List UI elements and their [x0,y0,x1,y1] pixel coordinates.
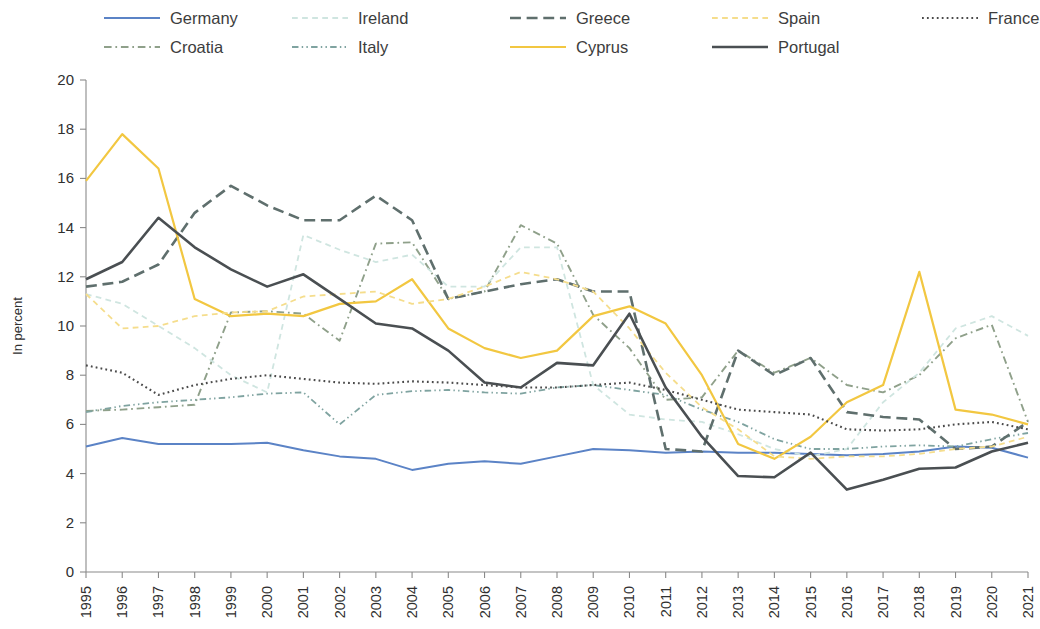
x-tick-label: 2001 [295,586,311,618]
x-tick-label: 2014 [766,586,782,618]
x-tick-label: 2015 [803,586,819,618]
y-tick-label: 10 [57,317,74,334]
line-chart-figure: GermanyIrelandGreeceSpainFranceCroatiaIt… [0,0,1040,629]
x-tick-label: 1999 [223,586,239,618]
x-tick-label: 2019 [948,586,964,618]
legend-item-portugal[interactable]: Portugal [712,38,839,56]
legend-label-portugal: Portugal [778,38,839,56]
series-line-greece [86,186,1028,452]
y-tick-label: 18 [57,120,74,137]
chart-series-layer [86,134,1028,489]
x-tick-label: 2021 [1020,586,1036,618]
x-tick-label: 2011 [658,586,674,617]
x-tick-label: 2020 [984,586,1000,618]
x-tick-label: 1998 [187,586,203,618]
series-line-portugal [86,218,1028,490]
x-tick-label: 2003 [368,586,384,618]
x-tick-label: 1996 [114,586,130,618]
y-tick-label: 12 [57,268,74,285]
series-line-cyprus [86,134,1028,459]
legend-label-germany: Germany [170,9,239,27]
x-tick-label: 2018 [911,586,927,618]
legend-item-croatia[interactable]: Croatia [104,38,224,56]
legend-item-france[interactable]: France [922,9,1039,27]
y-axis-title: In percent [10,297,25,355]
x-tick-label: 1997 [150,586,166,618]
x-tick-label: 1995 [78,586,94,618]
chart-canvas: GermanyIrelandGreeceSpainFranceCroatiaIt… [0,0,1040,629]
y-tick-label: 16 [57,169,74,186]
y-tick-label: 14 [57,219,74,236]
legend-item-cyprus[interactable]: Cyprus [510,38,628,56]
legend-label-ireland: Ireland [358,9,408,27]
x-tick-label: 2017 [875,586,891,618]
legend-label-cyprus: Cyprus [576,38,628,56]
y-tick-label: 6 [66,415,74,432]
legend-item-greece[interactable]: Greece [510,9,630,27]
x-tick-label: 2006 [477,586,493,618]
series-line-germany [86,438,1028,470]
legend-label-italy: Italy [358,38,389,56]
x-tick-label: 2013 [730,586,746,618]
legend-item-germany[interactable]: Germany [104,9,239,27]
series-line-spain [86,272,1028,459]
y-tick-label: 8 [66,366,74,383]
x-tick-label: 2009 [585,586,601,618]
x-tick-label: 2016 [839,586,855,618]
x-tick-label: 2007 [513,586,529,618]
x-tick-label: 2002 [332,586,348,618]
x-tick-label: 2012 [694,586,710,618]
x-tick-label: 2005 [440,586,456,618]
legend-label-france: France [988,9,1039,27]
x-tick-label: 2008 [549,586,565,618]
x-tick-label: 2004 [404,586,420,618]
y-tick-label: 2 [66,514,74,531]
y-tick-label: 4 [66,465,74,482]
y-tick-label: 20 [57,71,74,88]
y-axis-title-text: In percent [10,297,25,355]
chart-legend: GermanyIrelandGreeceSpainFranceCroatiaIt… [104,9,1039,56]
legend-label-spain: Spain [778,9,820,27]
y-tick-label: 0 [66,563,74,580]
x-tick-label: 2010 [621,586,637,618]
x-tick-label: 2000 [259,586,275,618]
legend-item-spain[interactable]: Spain [712,9,820,27]
series-line-croatia [86,225,1028,422]
legend-label-croatia: Croatia [170,38,224,56]
legend-label-greece: Greece [576,9,630,27]
chart-axes: 0246810121416182019951996199719981999200… [57,71,1036,618]
legend-item-ireland[interactable]: Ireland [292,9,408,27]
legend-item-italy[interactable]: Italy [292,38,389,56]
